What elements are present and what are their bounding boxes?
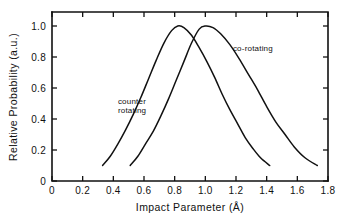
x-tick-label: 0.2 [75, 185, 90, 196]
x-tick-label: 1.0 [198, 185, 213, 196]
y-axis-tick-labels: 00.20.40.60.81.0 [31, 21, 46, 187]
axis-lines [52, 12, 328, 181]
x-tick-label: 0 [49, 185, 55, 196]
y-axis-title: Relative Probability (a.u.) [7, 33, 19, 161]
y-tick-label: 0.4 [31, 114, 46, 125]
annotation-counter: counter [118, 97, 146, 106]
series-annotations: co-rotatingcounterrotating [118, 44, 273, 115]
x-axis-ticks [52, 12, 328, 181]
y-axis-ticks [52, 26, 328, 181]
annotation-co-rotating: co-rotating [233, 44, 273, 53]
y-tick-label: 0 [40, 176, 46, 187]
x-axis-tick-labels: 00.20.40.60.81.01.21.41.61.8 [49, 185, 335, 196]
y-tick-label: 0.2 [31, 145, 46, 156]
x-tick-label: 0.6 [137, 185, 152, 196]
x-tick-label: 1.8 [321, 185, 336, 196]
chart-plot: 00.20.40.60.81.01.21.41.61.8 00.20.40.60… [0, 0, 347, 218]
frame-top-right [52, 12, 328, 181]
annotation-rotating: rotating [118, 106, 146, 115]
x-tick-label: 1.4 [259, 185, 274, 196]
x-tick-label: 1.6 [290, 185, 305, 196]
y-tick-label: 0.8 [31, 52, 46, 63]
x-axis-title: Impact Parameter (Å) [136, 201, 244, 213]
y-tick-label: 1.0 [31, 21, 46, 32]
figure-container: 00.20.40.60.81.01.21.41.61.8 00.20.40.60… [0, 0, 347, 218]
x-tick-label: 0.4 [106, 185, 121, 196]
y-tick-label: 0.6 [31, 83, 46, 94]
x-tick-label: 0.8 [167, 185, 182, 196]
x-tick-label: 1.2 [229, 185, 244, 196]
